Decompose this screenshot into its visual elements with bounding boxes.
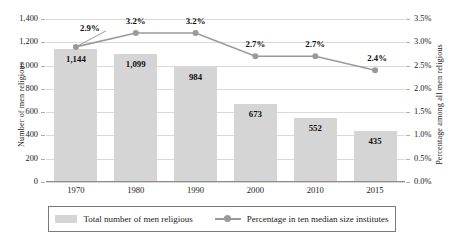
bar-value-label: 1,144 — [46, 54, 106, 64]
y-axis-left-tick-mark — [41, 19, 45, 20]
legend-line-label: Percentage in ten median size institutes — [247, 214, 389, 224]
y-axis-right-tick-label: 1.0% — [414, 130, 431, 139]
gridline — [46, 182, 405, 183]
y-axis-left-tick-label: 800 — [0, 84, 38, 93]
y-axis-right-tick-mark — [406, 182, 410, 183]
y-axis-right-tick-label: 0.5% — [414, 154, 431, 163]
legend-bar-swatch-icon — [55, 215, 77, 223]
y-axis-right-tick-mark — [406, 42, 410, 43]
y-axis-right-tick-label: 2.0% — [414, 84, 431, 93]
x-axis-tick-label: 1990 — [166, 185, 226, 195]
legend-bar-label: Total number of men religious — [83, 214, 192, 224]
line-marker[interactable] — [193, 30, 199, 36]
y-axis-right-tick-mark — [406, 66, 410, 67]
x-axis-tick-label: 2015 — [345, 185, 405, 195]
y-axis-left-tick-mark — [41, 135, 45, 136]
y-axis-left-tick-label: 200 — [0, 154, 38, 163]
line-value-label: 2.7% — [226, 39, 286, 49]
line-value-label: 3.2% — [166, 16, 226, 26]
y-axis-right-title: Percentage among all men religious — [435, 30, 444, 180]
y-axis-left-tick-mark — [41, 89, 45, 90]
y-axis-left-tick-label: 0 — [0, 177, 38, 186]
line-marker[interactable] — [252, 53, 258, 59]
bar-value-label: 552 — [285, 123, 345, 133]
legend-line-marker-icon — [215, 214, 241, 224]
y-axis-right-tick-label: 1.5% — [414, 107, 431, 116]
line-value-label: 2.4% — [347, 53, 407, 63]
y-axis-right-tick-label: 3.0% — [414, 37, 431, 46]
y-axis-left-tick-label: 1,200 — [0, 37, 38, 46]
y-axis-left-tick-mark — [41, 66, 45, 67]
y-axis-right-tick-mark — [406, 19, 410, 20]
line-value-label: 2.7% — [285, 39, 345, 49]
line-value-label: 3.2% — [106, 16, 166, 26]
line-marker[interactable] — [312, 53, 318, 59]
x-axis-tick-label: 2010 — [285, 185, 345, 195]
bar-value-label: 673 — [226, 109, 286, 119]
line-marker[interactable] — [73, 44, 79, 50]
legend-item-bar: Total number of men religious — [55, 214, 192, 224]
y-axis-left-tick-mark — [41, 182, 45, 183]
bar-value-label: 435 — [345, 136, 405, 146]
y-axis-left-tick-mark — [41, 159, 45, 160]
y-axis-right-tick-mark — [406, 89, 410, 90]
y-axis-right-tick-mark — [406, 159, 410, 160]
y-axis-right-tick-label: 3.5% — [414, 14, 431, 23]
x-axis-line — [46, 181, 405, 182]
y-axis-left-tick-label: 600 — [0, 107, 38, 116]
line-marker[interactable] — [372, 67, 378, 73]
x-axis-tick-label: 1970 — [46, 185, 106, 195]
y-axis-right-tick-label: 2.5% — [414, 61, 431, 70]
y-axis-left-tick-label: 1,000 — [0, 61, 38, 70]
y-axis-right-tick-mark — [406, 112, 410, 113]
y-axis-left-tick-label: 1,400 — [0, 14, 38, 23]
y-axis-right-tick-label: 0.0% — [414, 177, 431, 186]
x-axis-tick-label: 1980 — [106, 185, 166, 195]
legend-item-line: Percentage in ten median size institutes — [215, 214, 389, 224]
bar-value-label: 984 — [166, 72, 226, 82]
chart-container: Number of men religious Percentage among… — [0, 0, 464, 241]
y-axis-left-tick-label: 400 — [0, 130, 38, 139]
bar-value-label: 1,099 — [106, 59, 166, 69]
line-marker[interactable] — [133, 30, 139, 36]
y-axis-left-tick-mark — [41, 42, 45, 43]
chart-legend: Total number of men religious Percentage… — [48, 206, 396, 232]
y-axis-right-tick-mark — [406, 135, 410, 136]
x-axis-tick-label: 2000 — [226, 185, 286, 195]
y-axis-left-tick-mark — [41, 112, 45, 113]
